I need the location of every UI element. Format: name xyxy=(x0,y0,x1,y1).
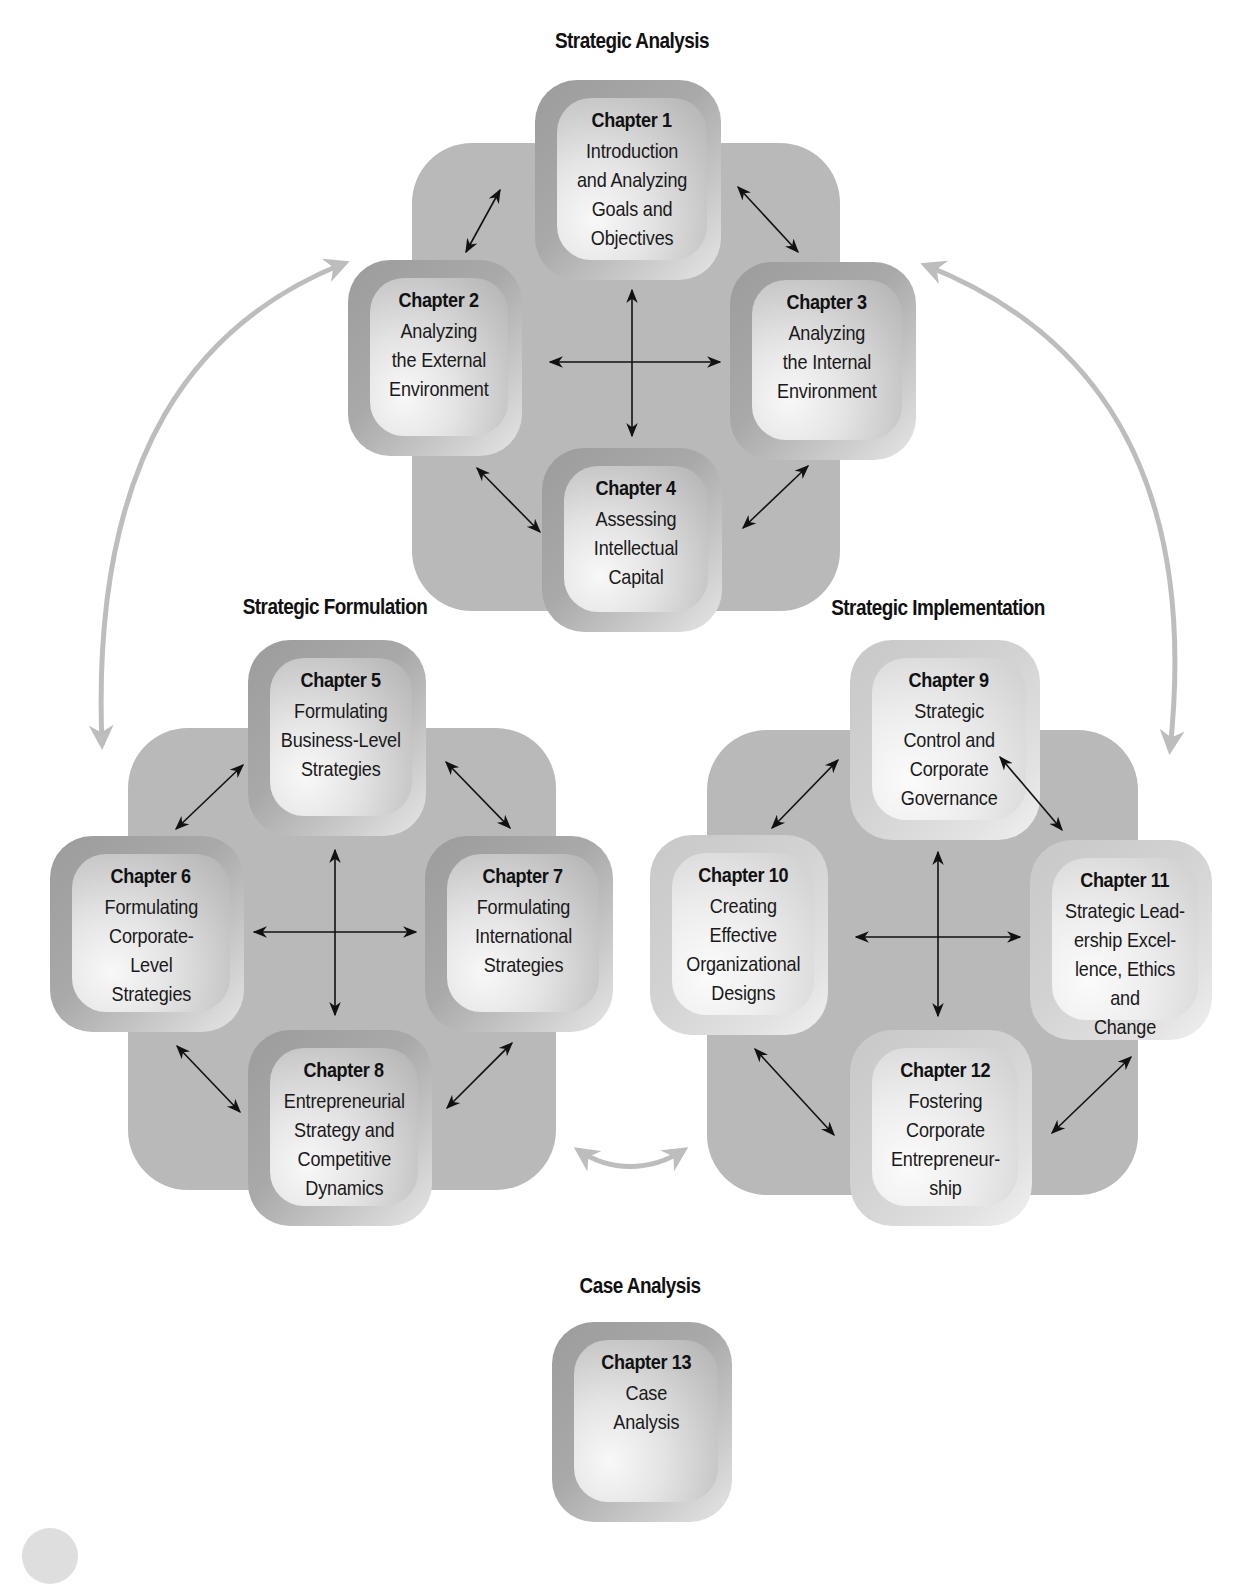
chapter-11-box[interactable]: Chapter 11Strategic Lead- ership Excel- … xyxy=(1030,840,1212,1040)
exhibit-badge-circle xyxy=(22,1528,78,1584)
chapter-8-label: Chapter 8 xyxy=(304,1058,384,1082)
chapter-10-description: Creating Effective Organizational Design… xyxy=(686,891,800,1007)
section-title-strategic-formulation: Strategic Formulation xyxy=(243,594,428,620)
chapter-3-description: Analyzing the Internal Environment xyxy=(777,318,877,405)
section-title-strategic-analysis: Strategic Analysis xyxy=(555,28,709,54)
chapter-8-description: Entrepreneurial Strategy and Competitive… xyxy=(284,1086,405,1202)
chapter-1-label: Chapter 1 xyxy=(592,108,672,132)
chapter-5-box[interactable]: Chapter 5Formulating Business-Level Stra… xyxy=(248,640,426,836)
chapter-12-description: Fostering Corporate Entrepreneur- ship xyxy=(890,1086,999,1202)
chapter-7-description: Formulating International Strategies xyxy=(474,892,571,979)
chapter-6-box[interactable]: Chapter 6Formulating Corporate- Level St… xyxy=(50,836,244,1032)
chapter-2-description: Analyzing the External Environment xyxy=(389,316,489,403)
chapter-4-description: Assessing Intellectual Capital xyxy=(594,504,678,591)
chapter-7-box[interactable]: Chapter 7Formulating International Strat… xyxy=(425,836,613,1032)
section-title-strategic-implementation: Strategic Implementation xyxy=(831,595,1045,621)
chapter-7-label: Chapter 7 xyxy=(483,864,563,888)
chapter-4-box[interactable]: Chapter 4Assessing Intellectual Capital xyxy=(542,448,722,632)
chapter-11-description: Strategic Lead- ership Excel- lence, Eth… xyxy=(1062,896,1188,1041)
chapter-12-label: Chapter 12 xyxy=(900,1058,990,1082)
chapter-5-description: Formulating Business-Level Strategies xyxy=(281,696,401,783)
chapter-10-label: Chapter 10 xyxy=(698,863,788,887)
chapter-8-box[interactable]: Chapter 8Entrepreneurial Strategy and Co… xyxy=(248,1030,432,1226)
chapter-1-description: Introduction and Analyzing Goals and Obj… xyxy=(577,136,687,252)
chapter-13-box[interactable]: Chapter 13Case Analysis xyxy=(552,1322,732,1522)
chapter-10-box[interactable]: Chapter 10Creating Effective Organizatio… xyxy=(650,835,828,1035)
chapter-3-box[interactable]: Chapter 3Analyzing the Internal Environm… xyxy=(730,262,916,460)
chapter-6-label: Chapter 6 xyxy=(111,864,191,888)
chapter-2-box[interactable]: Chapter 2Analyzing the External Environm… xyxy=(348,260,522,456)
chapter-2-label: Chapter 2 xyxy=(399,288,479,312)
chapter-9-label: Chapter 9 xyxy=(909,668,989,692)
chapter-13-label: Chapter 13 xyxy=(601,1350,691,1374)
chapter-9-description: Strategic Control and Corporate Governan… xyxy=(901,696,998,812)
chapter-9-box[interactable]: Chapter 9Strategic Control and Corporate… xyxy=(850,640,1040,840)
chapter-11-label: Chapter 11 xyxy=(1081,868,1170,892)
chapter-6-description: Formulating Corporate- Level Strategies xyxy=(104,892,197,1008)
chapter-4-label: Chapter 4 xyxy=(596,476,676,500)
section-title-case-analysis: Case Analysis xyxy=(580,1273,701,1299)
chapter-3-label: Chapter 3 xyxy=(787,290,867,314)
cycle-arrow-formulation-implementation xyxy=(578,1150,684,1167)
chapter-5-label: Chapter 5 xyxy=(301,668,381,692)
chapter-12-box[interactable]: Chapter 12Fostering Corporate Entreprene… xyxy=(850,1030,1032,1226)
chapter-13-description: Case Analysis xyxy=(613,1378,679,1436)
chapter-1-box[interactable]: Chapter 1Introduction and Analyzing Goal… xyxy=(535,80,721,280)
